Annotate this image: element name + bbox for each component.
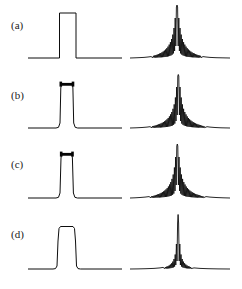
panel-b-freq-trace — [130, 75, 230, 129]
panel-d-time-trace — [28, 227, 122, 270]
panel-d-freq-svg — [130, 211, 230, 283]
panel-c-freq-plot — [130, 141, 230, 213]
panel-b-time-svg — [28, 72, 122, 144]
panel-a-time-trace — [28, 13, 122, 58]
panel-b-freq-plot — [130, 72, 230, 144]
panel-label-b: (b) — [11, 90, 24, 101]
figure-root: (a) (b) ( — [0, 0, 242, 289]
panel-c-freq-trace — [130, 144, 230, 198]
panel-label-c: (c) — [11, 159, 23, 170]
panel-a-time-plot — [28, 2, 122, 74]
panel-c-time-trace — [28, 155, 122, 198]
panel-b-time-plot — [28, 72, 122, 144]
panel-d-freq-plot — [130, 211, 230, 283]
panel-d-time-svg — [28, 211, 122, 283]
panel-b-freq-svg — [130, 72, 230, 144]
panel-b: (b) — [0, 72, 242, 144]
panel-a-freq-trace — [130, 5, 230, 58]
panel-label-a: (a) — [11, 20, 23, 31]
panel-c-time-plot — [28, 141, 122, 213]
panel-a: (a) — [0, 2, 242, 74]
panel-a-time-svg — [28, 2, 122, 74]
panel-c-freq-svg — [130, 141, 230, 213]
panel-d: (d) — [0, 211, 242, 283]
panel-d-time-plot — [28, 211, 122, 283]
panel-a-freq-plot — [130, 2, 230, 74]
panel-a-freq-svg — [130, 2, 230, 74]
panel-c: (c) — [0, 141, 242, 213]
panel-c-time-svg — [28, 141, 122, 213]
panel-b-time-trace — [28, 85, 122, 128]
panel-d-freq-trace — [130, 215, 230, 270]
panel-label-d: (d) — [11, 229, 24, 240]
